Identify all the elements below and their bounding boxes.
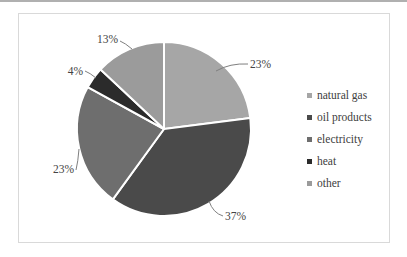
data-label-heat: 4%	[68, 65, 84, 77]
pie-slice-natural-gas[interactable]	[164, 42, 250, 129]
legend-label: oil products	[317, 110, 372, 124]
legend-label: other	[317, 176, 341, 190]
legend-label: natural gas	[317, 88, 367, 102]
data-label-electricity: 23%	[53, 163, 75, 175]
data-label-natural-gas: 23%	[250, 58, 272, 70]
legend-label: electricity	[317, 132, 363, 146]
legend-marker-icon	[307, 137, 312, 142]
legend-marker-icon	[307, 93, 312, 98]
legend-item-other[interactable]: other	[307, 176, 372, 190]
label-leader-line	[85, 71, 96, 78]
legend-label: heat	[317, 154, 336, 168]
chart-legend: natural gas oil products electricity hea…	[307, 88, 372, 190]
legend-item-electricity[interactable]: electricity	[307, 132, 372, 146]
legend-item-oil-products[interactable]: oil products	[307, 110, 372, 124]
data-label-other: 13%	[97, 33, 119, 45]
legend-marker-icon	[307, 181, 312, 186]
data-label-oil-products: 37%	[225, 210, 247, 222]
page-top-border	[0, 0, 407, 2]
legend-marker-icon	[307, 159, 312, 164]
chart-frame: 23%37%23%4%13% natural gas oil products …	[18, 13, 390, 243]
label-leader-line	[76, 149, 79, 170]
label-leader-line	[120, 41, 132, 49]
legend-marker-icon	[307, 115, 312, 120]
legend-item-heat[interactable]: heat	[307, 154, 372, 168]
legend-item-natural-gas[interactable]: natural gas	[307, 88, 372, 102]
